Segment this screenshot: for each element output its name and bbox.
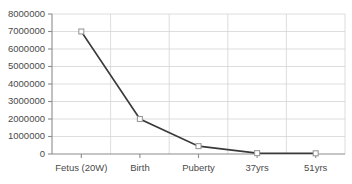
x-axis-tick-label: 37yrs: [245, 162, 268, 173]
y-axis-tick-label: 0: [40, 148, 45, 159]
x-axis-tick-label: Puberty: [182, 162, 215, 173]
y-axis-tick-label: 6000000: [8, 43, 45, 54]
y-axis-tick-label: 8000000: [8, 8, 45, 19]
chart-canvas: 8000000700000060000005000000400000030000…: [0, 0, 352, 184]
line-chart: 8000000700000060000005000000400000030000…: [0, 0, 352, 184]
x-axis-tick-label: 51yrs: [304, 162, 327, 173]
x-axis-tick-label: Birth: [130, 162, 150, 173]
y-axis-tick-label: 3000000: [8, 95, 45, 106]
data-line: [81, 32, 315, 154]
x-axis-tick-labels: Fetus (20W)BirthPuberty37yrs51yrs: [55, 162, 327, 173]
x-axis-tick-label: Fetus (20W): [55, 162, 107, 173]
y-axis-tick-label: 7000000: [8, 25, 45, 36]
y-axis-tick-label: 5000000: [8, 60, 45, 71]
y-axis-tick-label: 1000000: [8, 130, 45, 141]
data-point-marker: [79, 29, 84, 34]
gridlines: [52, 14, 345, 154]
data-point-marker: [255, 151, 260, 156]
y-axis-tick-label: 2000000: [8, 113, 45, 124]
y-axis-tick-labels: 8000000700000060000005000000400000030000…: [8, 8, 45, 159]
y-axis-tick-label: 4000000: [8, 78, 45, 89]
data-point-marker: [196, 144, 201, 149]
data-point-marker: [313, 151, 318, 156]
data-point-marker: [137, 117, 142, 122]
